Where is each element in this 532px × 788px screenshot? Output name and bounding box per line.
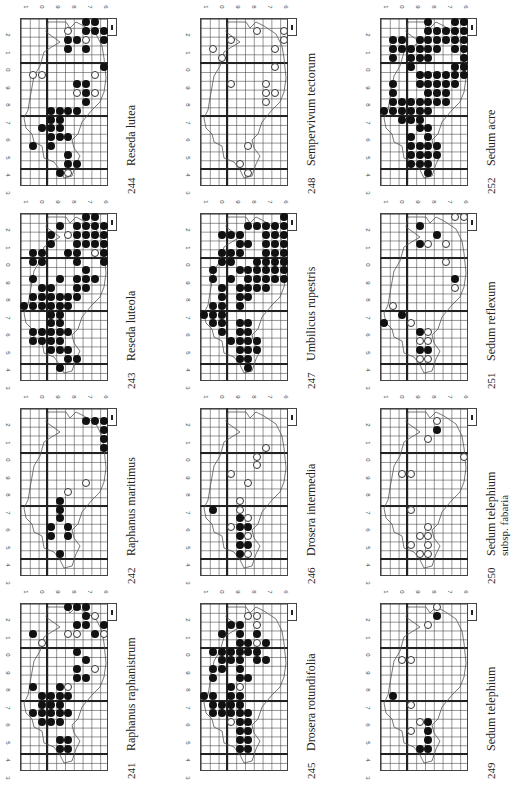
record-dot-filled [73, 107, 81, 115]
record-dot-filled [91, 417, 99, 425]
record-dot-open [407, 727, 415, 735]
record-dot-filled [416, 222, 424, 230]
record-dot-open [262, 98, 270, 106]
axis-ticks-left: 2109876543 [366, 603, 376, 778]
map-number: 248 [305, 166, 317, 194]
scale-box [108, 408, 117, 426]
record-dot-filled [100, 36, 108, 44]
record-dot-open [416, 550, 424, 558]
axis-ticks-left: 2109876543 [186, 408, 196, 583]
record-dot-open [280, 36, 288, 44]
record-dot-filled [416, 142, 424, 150]
record-dot-filled [209, 311, 217, 319]
record-dot-open [442, 258, 450, 266]
tick-label: 9 [5, 671, 11, 674]
record-dot-filled [56, 364, 64, 372]
tick-label: 7 [87, 395, 93, 398]
axis-ticks-top: 109876 [200, 394, 300, 406]
tick-label: 9 [185, 281, 191, 284]
tick-label: 7 [87, 590, 93, 593]
map-caption-244: 244Reseda lutea [124, 105, 139, 194]
axis-ticks-top: 109876 [20, 589, 120, 601]
tick-label: 5 [185, 156, 191, 159]
record-dot-filled [236, 302, 244, 310]
record-dot-filled [56, 736, 64, 744]
record-dot-filled [262, 249, 270, 257]
record-dot-filled [398, 98, 406, 106]
record-dot-filled [227, 692, 235, 700]
tick-label: 8 [431, 395, 437, 398]
tick-label: 3 [5, 191, 11, 194]
record-dot-filled [407, 151, 415, 159]
tick-label: 8 [365, 493, 371, 496]
tick-label: 7 [365, 121, 371, 124]
record-dot-open [236, 683, 244, 691]
axis-ticks-top: 109876 [200, 4, 300, 16]
record-dot-filled [280, 249, 288, 257]
tick-label: 0 [365, 68, 371, 71]
tick-label: 9 [185, 671, 191, 674]
tick-label: 9 [55, 395, 61, 398]
record-dot-filled [56, 497, 64, 505]
tick-label: 8 [251, 590, 257, 593]
tick-label: 0 [5, 458, 11, 461]
record-dot-open [416, 532, 424, 540]
tick-label: 2 [365, 228, 371, 231]
record-dot-filled [389, 107, 397, 115]
record-dot-filled [100, 249, 108, 257]
record-dot-open [253, 453, 261, 461]
record-dot-filled [236, 249, 244, 257]
tick-label: 9 [365, 281, 371, 284]
record-dot-open [407, 541, 415, 549]
record-dot-filled [236, 648, 244, 656]
tick-label: 6 [5, 138, 11, 141]
record-dot-filled [56, 346, 64, 354]
record-dot-filled [218, 249, 226, 257]
record-dot-open [416, 355, 424, 363]
tick-label: 8 [5, 688, 11, 691]
record-dot-filled [407, 54, 415, 62]
tick-label: 1 [383, 590, 389, 593]
record-dot-filled [47, 692, 55, 700]
tick-label: 7 [185, 706, 191, 709]
record-dot-filled [236, 231, 244, 239]
tick-label: 7 [447, 5, 453, 8]
record-dot-filled [56, 169, 64, 177]
tick-label: 6 [5, 723, 11, 726]
record-dot-open [91, 89, 99, 97]
tick-label: 1 [185, 246, 191, 249]
record-dot-filled [236, 621, 244, 629]
record-dot-filled [209, 648, 217, 656]
record-dot-filled [227, 231, 235, 239]
record-dot-filled [236, 523, 244, 531]
record-dot-filled [100, 240, 108, 248]
record-dot-filled [416, 160, 424, 168]
record-dot-filled [56, 116, 64, 124]
tick-label: 1 [383, 395, 389, 398]
record-dot-filled [236, 718, 244, 726]
tick-label: 6 [463, 395, 469, 398]
record-dot-filled [47, 107, 55, 115]
map-caption-250: 250Sedum telephiumsubsp. fabaria [484, 472, 510, 584]
axis-ticks-top: 109876 [200, 199, 300, 211]
record-dot-filled [56, 701, 64, 709]
tick-label: 2 [5, 618, 11, 621]
species-name: Reseda lutea [124, 105, 138, 166]
axis-ticks-top: 109876 [20, 394, 120, 406]
tick-label: 2 [185, 33, 191, 36]
tick-label: 7 [267, 395, 273, 398]
tick-label: 6 [283, 590, 289, 593]
tick-label: 6 [283, 395, 289, 398]
record-dot-filled [209, 506, 217, 514]
record-dot-open [271, 45, 279, 53]
tick-label: 1 [203, 590, 209, 593]
species-name: Drosera rotundifolia [304, 653, 318, 751]
axis-ticks-left: 2109876543 [186, 603, 196, 778]
tick-label: 3 [185, 191, 191, 194]
tick-label: 0 [5, 68, 11, 71]
tick-label: 2 [365, 33, 371, 36]
record-dot-filled [91, 231, 99, 239]
record-dot-filled [407, 160, 415, 168]
species-name: Sedum telephium [484, 667, 498, 751]
record-dot-filled [280, 213, 288, 221]
